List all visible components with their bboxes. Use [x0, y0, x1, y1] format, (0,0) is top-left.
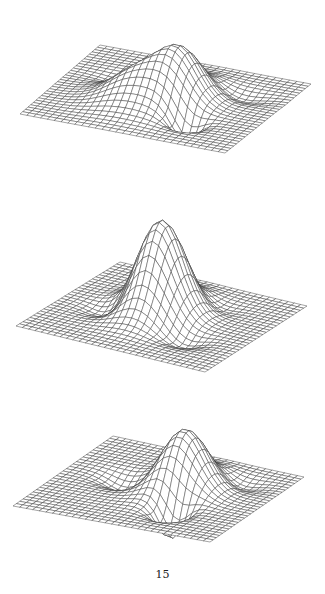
surface-plot-3 — [0, 410, 325, 560]
surface-plot-2 — [0, 205, 325, 385]
surface-plot-1 — [0, 20, 325, 180]
page-number: 15 — [0, 568, 325, 581]
surface-plot-3-svg — [0, 410, 325, 560]
surface-plot-2-svg — [0, 205, 325, 385]
surface-mesh — [16, 220, 307, 372]
surface-mesh — [13, 429, 304, 542]
surface-mesh — [20, 44, 311, 153]
surface-plot-1-svg — [0, 20, 325, 180]
